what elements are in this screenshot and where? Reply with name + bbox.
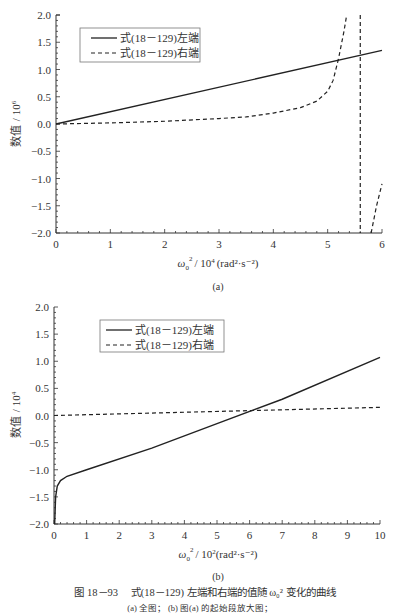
chart-a-y-label: 数值/ 106 [10, 100, 22, 147]
legend-label-right: 式(18－129)右端 [135, 338, 214, 352]
chart-a: 2.01.51.00.50.0−0.5−1.0−1.5−2.0 0123456 … [10, 9, 385, 293]
chart-a-legend: 式(18－129)左端 式(18－129)右端 [80, 28, 200, 62]
legend-label-left: 式(18－129)左端 [120, 32, 199, 45]
figure-caption-subtitle: (a) 全图； (b) 图(a) 的起始段放大图； [127, 603, 272, 613]
x-tick-label: 4 [271, 238, 277, 250]
svg-text:数值/ 104: 数值/ 104 [10, 391, 22, 438]
x-tick-label: 6 [247, 529, 253, 541]
x-tick-label: 4 [182, 529, 188, 541]
x-tick-label: 9 [345, 529, 351, 541]
x-tick-label: 0 [51, 529, 57, 541]
y-tick-label: −0.5 [31, 145, 51, 157]
chart-b-series-left [55, 357, 380, 524]
x-tick-label: 1 [84, 529, 90, 541]
y-tick-label: 0.5 [37, 91, 51, 103]
x-tick-label: 3 [149, 529, 155, 541]
chart-a-panel-label: (a) [212, 281, 223, 293]
chart-b-y-label: 数值/ 104 [10, 391, 22, 438]
x-tick-label: 8 [312, 529, 318, 541]
y-tick-label: 1.5 [35, 328, 49, 340]
x-tick-label: 5 [325, 238, 331, 250]
x-tick-label: 0 [53, 238, 59, 250]
y-tick-label: −2.0 [29, 518, 49, 530]
chart-a-x-label: ω02/ 104(rad²·s⁻²) [178, 255, 259, 272]
figure-caption-title: 图 18－93 式(18－129) 左端和右端的值随 ω₀² 变化的曲线 [74, 586, 336, 599]
chart-a-x-ticks: 0123456 [53, 229, 385, 250]
x-tick-label: 5 [214, 529, 220, 541]
y-tick-label: 0.5 [35, 382, 49, 394]
y-tick-label: 1.0 [37, 64, 51, 76]
y-tick-label: 2.0 [35, 301, 49, 313]
figure-canvas: 2.01.51.00.50.0−0.5−1.0−1.5−2.0 0123456 … [0, 0, 398, 614]
legend-label-left: 式(18－129)左端 [135, 324, 214, 337]
x-tick-label: 10 [375, 529, 387, 541]
y-tick-label: −2.0 [31, 227, 51, 239]
legend-label-right: 式(18－129)右端 [120, 46, 199, 60]
chart-b: 2.01.51.00.50.0−0.5−1.0−1.5−2.0 01234567… [10, 301, 386, 583]
chart-b-series-right [54, 407, 380, 415]
y-tick-label: −1.5 [29, 491, 49, 503]
y-tick-label: −1.5 [31, 200, 51, 212]
y-tick-label: 1.0 [35, 355, 49, 367]
y-tick-label: 1.5 [37, 36, 51, 48]
chart-b-legend: 式(18－129)左端 式(18－129)右端 [100, 320, 224, 352]
y-tick-label: 0.0 [37, 118, 51, 130]
x-tick-label: 2 [116, 529, 122, 541]
y-tick-label: −1.0 [29, 464, 49, 476]
x-tick-label: 2 [162, 238, 168, 250]
chart-b-x-ticks: 012345678910 [51, 520, 386, 541]
x-tick-label: 7 [279, 529, 285, 541]
y-tick-label: 0.0 [35, 410, 49, 422]
svg-text:数值/ 106: 数值/ 106 [10, 100, 22, 147]
chart-a-series-right-branch [371, 184, 382, 233]
x-tick-label: 1 [108, 238, 114, 250]
y-tick-label: −1.0 [31, 173, 51, 185]
x-tick-label: 3 [216, 238, 222, 250]
y-tick-label: −0.5 [29, 437, 49, 449]
chart-b-x-label: ω02/ 102(rad²·s⁻²) [179, 546, 258, 563]
chart-b-panel-label: (b) [212, 571, 224, 583]
y-tick-label: 2.0 [37, 9, 51, 21]
x-tick-label: 6 [379, 238, 385, 250]
